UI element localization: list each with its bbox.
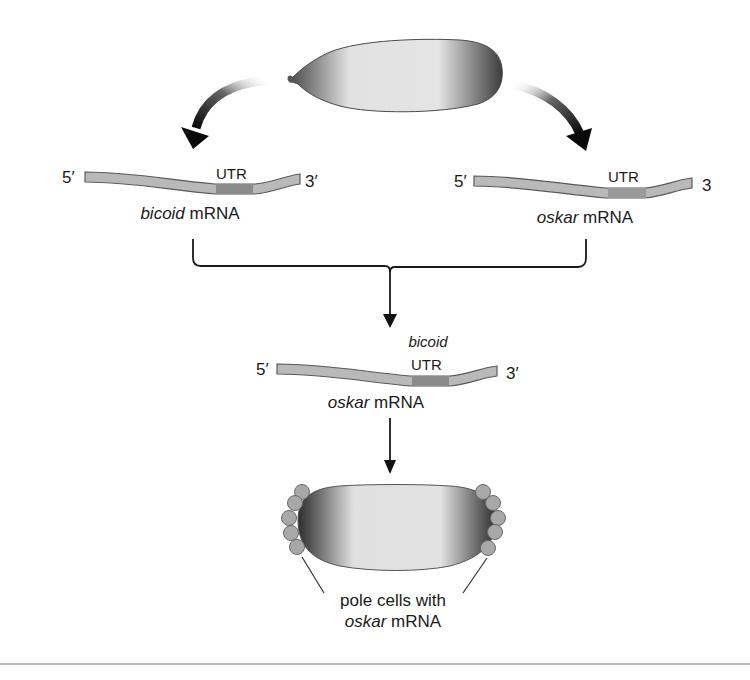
fused-three-prime-label: 3′ bbox=[506, 364, 519, 384]
fused-mrna-strand bbox=[277, 364, 497, 386]
pole-cells-caption-line2: oskar mRNA bbox=[345, 612, 441, 632]
fused-utr-gene: bicoid bbox=[408, 333, 447, 350]
bicoid-utr-region bbox=[216, 184, 253, 194]
bicoid-five-prime-label: 5′ bbox=[62, 168, 75, 188]
bicoid-gene-name: bicoid bbox=[140, 204, 184, 223]
merge-bracket bbox=[193, 239, 586, 315]
oskar-mrna-suffix: mRNA bbox=[578, 208, 633, 227]
down-arrow-head bbox=[384, 460, 396, 474]
oskar-utr-region bbox=[608, 188, 646, 198]
oskar-mrna-strand bbox=[474, 176, 692, 198]
merge-arrowhead bbox=[383, 314, 397, 328]
bicoid-mrna-suffix: mRNA bbox=[185, 204, 240, 223]
fused-gene-name: oskar bbox=[328, 393, 370, 412]
oskar-utr-label: UTR bbox=[608, 167, 639, 187]
oskar-three-prime-label: 3 bbox=[702, 176, 711, 196]
fused-five-prime-label: 5′ bbox=[256, 360, 269, 380]
fused-utr-region bbox=[412, 376, 449, 386]
fused-mrna-suffix: mRNA bbox=[369, 393, 424, 412]
bicoid-mrna-strand bbox=[85, 172, 300, 194]
pole-cells-gene-name: oskar bbox=[345, 612, 387, 631]
bicoid-three-prime-label: 3′ bbox=[305, 172, 318, 192]
pole-cells-mrna-suffix: mRNA bbox=[386, 612, 441, 631]
fused-mrna-caption: oskar mRNA bbox=[328, 393, 424, 413]
diagram-canvas bbox=[0, 0, 750, 680]
bottom-embryo bbox=[298, 485, 496, 571]
pole-cells-caption-line1: pole cells with bbox=[340, 591, 446, 611]
fused-utr-label: UTR bbox=[411, 355, 442, 375]
right-curved-arrow bbox=[510, 84, 592, 151]
bicoid-mrna-caption: bicoid mRNA bbox=[140, 204, 239, 224]
fused-utr-origin-label: bicoid bbox=[408, 332, 447, 352]
oskar-gene-name: oskar bbox=[537, 208, 579, 227]
oskar-five-prime-label: 5′ bbox=[454, 172, 467, 192]
oskar-mrna-caption: oskar mRNA bbox=[537, 208, 633, 228]
bottom-divider bbox=[0, 663, 750, 665]
left-curved-arrow bbox=[181, 80, 272, 149]
bicoid-utr-label: UTR bbox=[216, 164, 247, 184]
top-embryo bbox=[288, 39, 503, 111]
